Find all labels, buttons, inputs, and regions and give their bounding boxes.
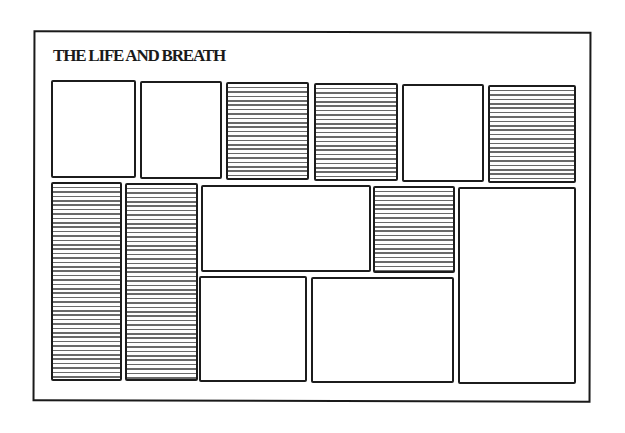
blank-image-panel (201, 185, 371, 272)
blank-image-panel (402, 84, 484, 182)
striped-text-panel (488, 85, 576, 183)
striped-text-panel (314, 83, 398, 181)
striped-text-panel (373, 186, 455, 273)
blank-image-panel (140, 81, 222, 179)
striped-text-panel (226, 82, 309, 180)
masthead-title: THE LIFE AND BREATH (53, 46, 225, 66)
blank-image-panel (51, 80, 136, 178)
blank-image-panel (458, 187, 576, 384)
blank-image-panel (199, 276, 307, 382)
blank-image-panel (311, 277, 454, 383)
striped-text-panel (51, 182, 122, 381)
striped-text-panel (125, 183, 198, 381)
